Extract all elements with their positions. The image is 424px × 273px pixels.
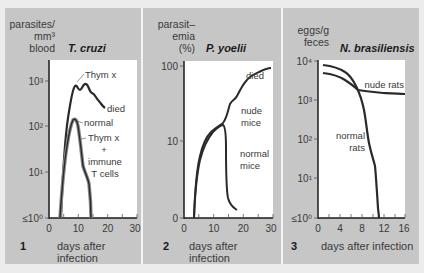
y-tick-label: 0 — [172, 213, 178, 224]
x-axis-label: days after infection — [57, 240, 141, 264]
label-normal: normal — [336, 130, 365, 141]
x-tick-label: 0 — [315, 223, 321, 234]
x-axis-label: days after infection — [189, 240, 281, 264]
y-tick-label: ≤10⁰ — [291, 213, 312, 224]
y-tick-label: 10¹ — [298, 173, 313, 184]
x-tick-label: 20 — [102, 223, 114, 234]
x-tick-label: 12 — [378, 223, 390, 234]
panel-p-yoelii: parasit– emia (%) P. yoelii 100 10 0 0 1… — [143, 8, 281, 264]
label-nude-rats: nude rats — [364, 79, 404, 90]
x-tick-label: 20 — [238, 223, 250, 234]
panel-t-cruzi: parasites/ mm³ blood T. cruzi 10³ 10² 10… — [5, 8, 141, 264]
y-tick-label: 10³ — [29, 76, 44, 87]
plot-n-brasiliensis: 10⁴ 10³ 10² 10¹ ≤10⁰ 0 4 8 12 16 nude ra… — [283, 8, 419, 264]
label-plus: + — [101, 144, 107, 155]
label-immune: immune — [88, 156, 122, 167]
y-tick-label: 100 — [161, 61, 178, 72]
x-tick-label: 4 — [337, 223, 343, 234]
y-tick-label: 10¹ — [29, 167, 44, 178]
panel-number: 1 — [20, 240, 26, 252]
label-normal: normal — [84, 117, 113, 128]
y-tick-label: ≤10⁰ — [22, 213, 43, 224]
label-t-cells: T cells — [91, 168, 119, 179]
y-tick-label: 10⁴ — [297, 56, 312, 67]
y-tick-label: 10 — [167, 136, 179, 147]
x-tick-label: 10 — [208, 223, 220, 234]
label-died: died — [107, 103, 125, 114]
x-tick-label: 16 — [398, 223, 410, 234]
panel-number: 2 — [163, 240, 169, 252]
label-thym-x: Thym x — [85, 69, 116, 80]
x-axis-label: days after infection — [321, 240, 413, 252]
panel-number: 3 — [291, 240, 297, 252]
plot-t-cruzi: 10³ 10² 10¹ ≤10⁰ 0 10 20 30 Thym x died … — [5, 8, 141, 264]
label-nude: nude — [241, 105, 262, 116]
x-tick-label: 0 — [181, 223, 187, 234]
panel-n-brasiliensis: eggs/g feces N. brasiliensis 10⁴ 10³ 10²… — [283, 8, 419, 264]
plot-p-yoelii: 100 10 0 0 10 20 30 died nude mice norma… — [143, 8, 281, 264]
label-normal-mice: mice — [240, 160, 260, 171]
label-normal: normal — [240, 148, 269, 159]
x-tick-label: 8 — [359, 223, 365, 234]
label-died: died — [246, 70, 264, 81]
x-tick-label: 10 — [73, 223, 85, 234]
x-tick-label: 0 — [46, 223, 52, 234]
y-tick-label: 10³ — [298, 95, 313, 106]
y-tick-label: 10² — [29, 121, 44, 132]
label-nude-mice: mice — [241, 117, 261, 128]
label-thym-x-immune: Thym x — [88, 132, 119, 143]
y-tick-label: 10² — [298, 134, 313, 145]
plot-area — [184, 61, 273, 218]
x-tick-label: 30 — [265, 223, 277, 234]
label-rats: rats — [349, 142, 365, 153]
x-tick-label: 30 — [129, 223, 141, 234]
